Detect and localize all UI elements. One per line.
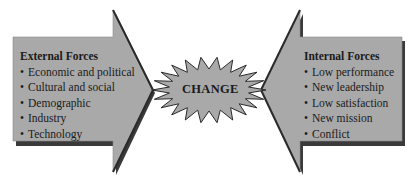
internal-forces-list: Internal Forces Low performance New lead…: [304, 49, 394, 142]
internal-forces-title: Internal Forces: [304, 49, 394, 65]
internal-force-item: New leadership: [304, 80, 394, 96]
internal-force-item: Low performance: [304, 65, 394, 81]
external-forces-title: External Forces: [20, 49, 135, 65]
external-forces-list: External Forces Economic and political C…: [20, 49, 135, 142]
change-label: CHANGE: [182, 82, 239, 97]
internal-force-item: Conflict: [304, 127, 394, 143]
internal-force-item: Low satisfaction: [304, 96, 394, 112]
external-force-item: Economic and political: [20, 65, 135, 81]
external-force-item: Cultural and social: [20, 80, 135, 96]
external-force-item: Technology: [20, 127, 135, 143]
external-force-item: Demographic: [20, 96, 135, 112]
internal-force-item: New mission: [304, 111, 394, 127]
external-force-item: Industry: [20, 111, 135, 127]
